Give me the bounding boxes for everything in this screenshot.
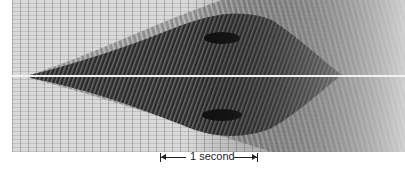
scale-label: 1 second: [190, 150, 235, 162]
time-scale-bar: 1 second: [158, 150, 262, 164]
scale-left-line: [160, 157, 186, 158]
trace-envelope-graphic: [12, 0, 405, 152]
record-trace-figure: [12, 0, 405, 152]
scale-right-tick-icon: [257, 153, 258, 162]
